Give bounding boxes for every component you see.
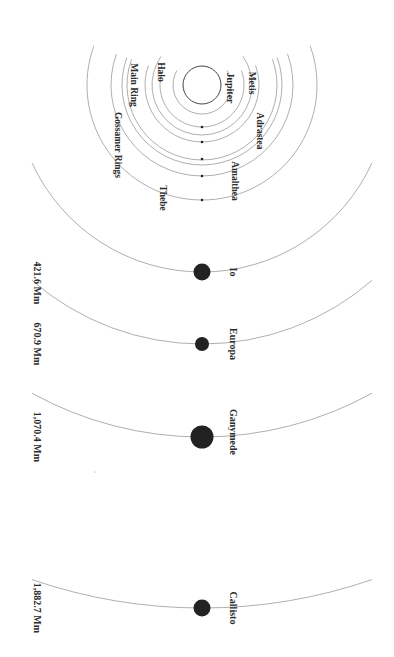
distance-callisto: 1,882.7 Mm [32, 583, 43, 634]
label-ganymede: Ganymede [228, 409, 239, 456]
distance-ganymede: 1,070.4 Mm [32, 412, 43, 463]
moon-io [194, 264, 211, 281]
jupiter-planet [183, 66, 221, 104]
distance-europa: 670.9 Mm [32, 323, 43, 366]
label-main-ring: Main Ring [129, 63, 139, 107]
label-gossamer-rings: Gossamer Rings [113, 112, 123, 178]
moon-inner-4 [201, 175, 204, 178]
label-jupiter: Jupiter [225, 72, 236, 104]
ring-halo [173, 71, 231, 115]
distance-io: 421.6 Mm [32, 262, 43, 305]
moon-metis [201, 126, 204, 129]
label-adrastea: Adrastea [255, 113, 265, 150]
orbit-europa [32, 280, 372, 344]
label-europa: Europa [228, 328, 239, 360]
label-thebe: Thebe [158, 185, 168, 210]
label-halo: Halo [156, 62, 166, 82]
moon-amalthea [201, 158, 204, 161]
label-amalthea: Amalthea [230, 161, 240, 201]
label-callisto: Callisto [228, 592, 239, 625]
moon-callisto [194, 600, 211, 617]
label-io: Io [228, 268, 239, 277]
moon-ganymede [191, 426, 214, 449]
moon-thebe [201, 199, 204, 202]
label-metis: Metis [247, 72, 257, 95]
moon-europa [195, 337, 209, 351]
ring-main-ring [152, 56, 252, 135]
speck [94, 471, 95, 472]
moon-adrastea [201, 141, 204, 144]
orbit-arcs [32, 46, 372, 608]
jupiter-system-diagram: JupiterHaloMain RingGossamer RingsMetisA… [0, 0, 394, 657]
orbit-io [32, 163, 372, 272]
labels: JupiterHaloMain RingGossamer RingsMetisA… [32, 62, 265, 634]
